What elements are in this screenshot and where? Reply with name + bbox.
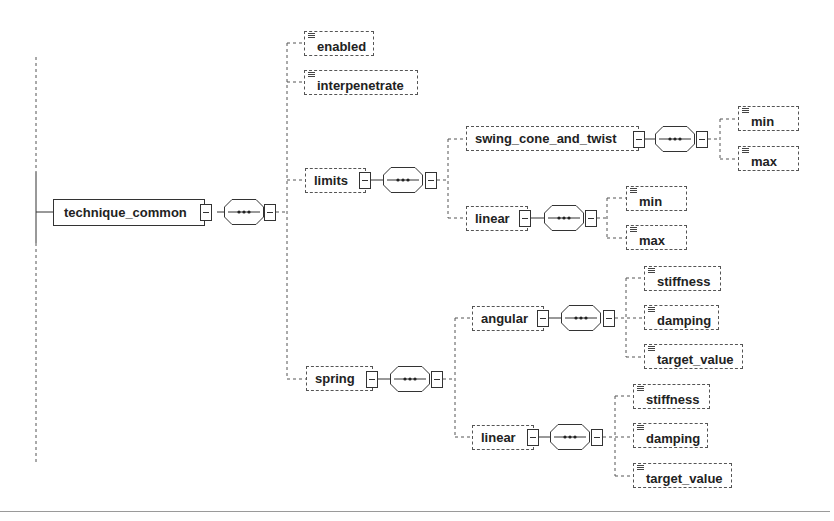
sequence-compositor-icon [545,206,584,231]
collapse-toggle[interactable] [603,310,615,327]
collapse-toggle[interactable] [537,310,549,327]
leaf-element-icon [648,268,655,275]
collapse-toggle[interactable] [696,131,708,148]
node-damping[interactable]: damping [644,305,719,330]
leaf-element-icon [630,227,637,234]
leaf-element-icon [630,188,637,195]
node-label: linear [473,430,516,445]
sequence-compositor-icon [656,127,695,152]
leaf-element-icon [648,307,655,314]
node-technique-common[interactable]: technique_common [53,199,205,226]
leaf-element-icon [637,465,644,472]
leaf-element-icon [637,425,644,432]
collapse-toggle[interactable] [633,131,645,148]
node-linear[interactable]: linear [472,425,534,450]
node-stiffness[interactable]: stiffness [644,266,721,291]
node-label: limits [306,173,348,188]
node-swing-cone-and-twist[interactable]: swing_cone_and_twist [466,126,639,151]
leaf-element-icon [637,386,644,393]
node-label: target_value [634,466,723,486]
node-spring[interactable]: spring [306,366,373,391]
sequence-compositor-icon [562,306,601,331]
collapse-toggle[interactable] [425,172,437,189]
collapse-toggle[interactable] [264,204,276,221]
leaf-element-icon [308,33,315,40]
node-max[interactable]: max [738,146,799,171]
node-stiffness[interactable]: stiffness [633,384,710,409]
node-label: interpenetrate [305,73,404,93]
node-min[interactable]: min [738,106,799,131]
node-label: technique_common [54,205,187,220]
collapse-toggle[interactable] [366,371,378,388]
node-max[interactable]: max [626,225,687,250]
collapse-toggle[interactable] [527,429,539,446]
leaf-element-icon [742,108,749,115]
leaf-element-icon [742,148,749,155]
sequence-compositor-icon [551,425,590,450]
collapse-toggle[interactable] [431,371,443,388]
node-label: spring [307,371,355,386]
node-min[interactable]: min [626,186,687,211]
collapse-toggle[interactable] [585,210,597,227]
collapse-toggle[interactable] [519,210,531,227]
collapse-toggle[interactable] [200,204,212,221]
sequence-compositor-icon [225,200,264,225]
leaf-element-icon [648,346,655,353]
node-target-value[interactable]: target_value [633,463,732,488]
sequence-compositor-icon [384,168,423,193]
node-label: angular [473,311,528,326]
node-label: target_value [645,347,734,367]
node-label: swing_cone_and_twist [467,131,617,146]
collapse-toggle[interactable] [591,429,603,446]
collapse-toggle[interactable] [359,172,371,189]
leaf-element-icon [308,72,315,79]
sequence-compositor-icon [391,367,430,392]
node-interpenetrate[interactable]: interpenetrate [304,70,418,95]
node-angular[interactable]: angular [472,306,544,331]
node-damping[interactable]: damping [633,423,708,448]
bottom-divider [0,511,830,512]
node-target-value[interactable]: target_value [644,344,743,369]
node-enabled[interactable]: enabled [304,31,374,56]
node-limits[interactable]: limits [305,168,366,193]
node-label: linear [467,211,510,226]
